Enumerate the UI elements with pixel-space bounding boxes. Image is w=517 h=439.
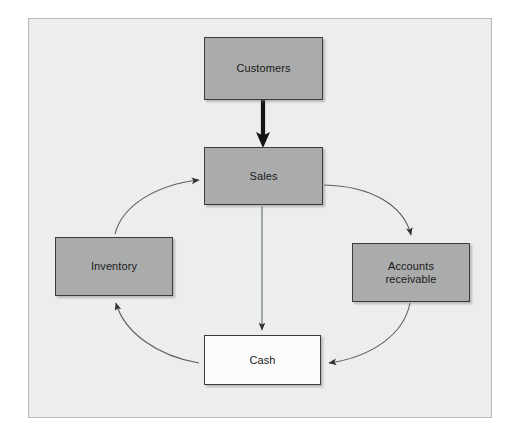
diagram-canvas: Customers Sales Accounts receivable Inve… xyxy=(0,0,517,439)
node-accounts-receivable-label-line2: receivable xyxy=(385,273,436,286)
node-customers-label: Customers xyxy=(236,62,290,75)
node-cash[interactable]: Cash xyxy=(204,335,321,385)
node-cash-label: Cash xyxy=(249,354,275,367)
node-inventory[interactable]: Inventory xyxy=(55,237,173,296)
node-sales[interactable]: Sales xyxy=(204,147,323,205)
node-sales-label: Sales xyxy=(249,170,277,183)
node-accounts-receivable-label-line1: Accounts xyxy=(385,260,436,273)
node-inventory-label: Inventory xyxy=(91,260,137,273)
node-customers[interactable]: Customers xyxy=(204,37,323,100)
node-accounts-receivable-label: Accounts receivable xyxy=(385,260,436,286)
node-accounts-receivable[interactable]: Accounts receivable xyxy=(352,243,470,302)
